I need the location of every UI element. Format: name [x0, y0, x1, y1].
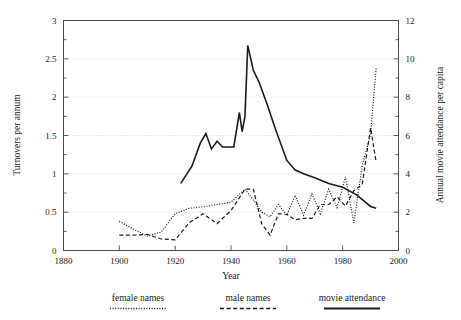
chart-figure: 00.511.522.53 024681012 1880190019201940… [0, 0, 461, 320]
y-axis-title: Turnovers per annum [12, 94, 22, 176]
x-axis-ticks [64, 246, 399, 251]
x-tick-label: 1980 [334, 256, 353, 266]
legend-label-male-names: male names [225, 293, 270, 303]
x-tick-label: 1960 [278, 256, 297, 266]
left-axis-ticks [64, 21, 69, 251]
y-tick-label: 3 [52, 16, 57, 26]
x-tick-label: 1920 [166, 256, 185, 266]
x-tick-label: 1880 [55, 256, 74, 266]
x-axis-tick-labels: 1880190019201940196019802000 [55, 256, 409, 266]
right-axis-tick-labels: 024681012 [406, 16, 416, 256]
y2-tick-label: 2 [406, 207, 411, 217]
x-tick-label: 2000 [390, 256, 409, 266]
data-series-group [119, 45, 376, 239]
y2-tick-label: 8 [406, 92, 411, 102]
y-tick-label: 1.5 [45, 131, 57, 141]
y2-tick-label: 4 [406, 169, 411, 179]
y2-tick-label: 12 [406, 16, 415, 26]
legend-label-movie-attendance: movie attendance [319, 293, 386, 303]
y-tick-label: 2.5 [45, 54, 57, 64]
x-tick-label: 1940 [222, 256, 241, 266]
y-tick-label: 0 [52, 246, 57, 256]
series-line-female-names [119, 68, 376, 236]
y-tick-label: 1 [52, 169, 57, 179]
x-axis-title: Year [222, 271, 240, 281]
y2-tick-label: 10 [406, 54, 416, 64]
chart-legend: female namesmale namesmovie attendance [110, 293, 385, 309]
y-tick-label: 0.5 [45, 207, 57, 217]
y-tick-label: 2 [52, 92, 57, 102]
x-tick-label: 1900 [110, 256, 129, 266]
line-chart: 00.511.522.53 024681012 1880190019201940… [0, 0, 461, 320]
y2-tick-label: 0 [406, 246, 411, 256]
left-axis-tick-labels: 00.511.522.53 [45, 16, 57, 256]
plot-frame [64, 21, 399, 251]
y2-tick-label: 6 [406, 131, 411, 141]
y2-axis-title: Annual movie attendance per capita [435, 66, 445, 203]
legend-label-female-names: female names [112, 293, 165, 303]
series-line-male-names [119, 128, 376, 240]
right-axis-ticks [394, 21, 399, 251]
